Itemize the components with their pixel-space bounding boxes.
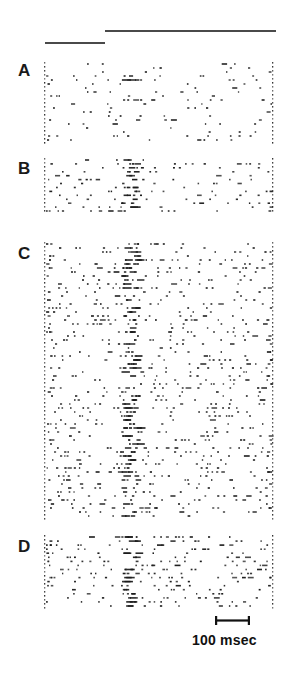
panel-label-a: A (18, 62, 30, 79)
panel-label-c: C (18, 245, 30, 262)
scale-bar-icon (211, 613, 256, 628)
raster-figure: A B C D 100 msec (0, 0, 287, 678)
long-stimulus-bar (105, 30, 276, 32)
panel-label-d: D (18, 538, 30, 555)
spike-raster-canvas (0, 0, 287, 678)
short-stimulus-bar (45, 42, 105, 44)
scale-bar-label: 100 msec (192, 632, 257, 648)
panel-label-b: B (18, 160, 30, 177)
